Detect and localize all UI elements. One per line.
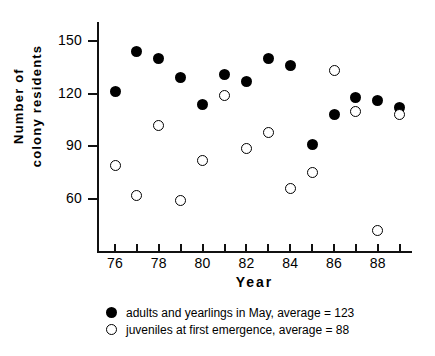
data-point: [372, 95, 383, 106]
x-axis-tick: [202, 244, 204, 252]
data-point: [350, 106, 361, 117]
data-point: [263, 53, 274, 64]
data-point: [110, 160, 121, 171]
data-point: [219, 69, 230, 80]
x-axis-tick-label: 80: [183, 256, 223, 271]
x-axis-tick: [289, 244, 291, 252]
scatter-chart-figure: 1501209060 76788082848688 Number ofcolon…: [0, 0, 435, 356]
data-point: [307, 167, 318, 178]
data-point: [131, 190, 142, 201]
data-point: [394, 109, 405, 120]
x-axis-tick-label: 86: [314, 256, 354, 271]
data-point: [285, 60, 296, 71]
legend-item: adults and yearlings in May, average = 1…: [104, 304, 424, 321]
x-axis-tick: [245, 244, 247, 252]
data-point: [197, 99, 208, 110]
data-point: [329, 65, 340, 76]
y-axis-tick-label: 120: [42, 86, 82, 100]
data-point: [175, 72, 186, 83]
legend-label: adults and yearlings in May, average = 1…: [126, 306, 354, 320]
data-point: [350, 92, 361, 103]
x-axis-title: Year: [97, 274, 412, 290]
chart-legend: adults and yearlings in May, average = 1…: [104, 304, 424, 338]
y-axis-tick-label: 60: [42, 191, 82, 205]
legend-item: juveniles at first emergence, average = …: [104, 321, 424, 338]
filled-circle-icon: [104, 306, 118, 320]
data-point: [307, 139, 318, 150]
plot-area: 1501209060 76788082848688 Number ofcolon…: [0, 0, 435, 300]
x-axis-tick-label: 84: [270, 256, 310, 271]
y-axis-tick: [88, 40, 97, 42]
x-axis-tick-label: 88: [358, 256, 398, 271]
data-point: [197, 155, 208, 166]
x-axis-tick: [399, 244, 401, 252]
y-axis-tick: [88, 93, 97, 95]
data-point: [175, 195, 186, 206]
data-point: [241, 143, 252, 154]
x-axis-tick: [158, 244, 160, 252]
x-axis-tick: [224, 244, 226, 252]
data-point: [329, 109, 340, 120]
data-point: [263, 127, 274, 138]
open-circle-icon: [104, 323, 118, 337]
x-axis-tick: [114, 244, 116, 252]
x-axis-tick: [333, 244, 335, 252]
x-axis-tick-label: 76: [95, 256, 135, 271]
data-point: [241, 76, 252, 87]
x-axis-tick-label: 78: [139, 256, 179, 271]
data-point: [110, 86, 121, 97]
y-axis-line: [97, 22, 99, 252]
x-axis-tick: [355, 244, 357, 252]
data-point: [219, 90, 230, 101]
y-axis-title-line: Number of: [10, 26, 28, 186]
data-point: [153, 120, 164, 131]
y-axis-tick-label: 150: [42, 33, 82, 47]
x-axis-tick: [311, 244, 313, 252]
x-axis-tick: [377, 244, 379, 252]
x-axis-tick: [180, 244, 182, 252]
x-axis-tick-label: 82: [226, 256, 266, 271]
y-axis-title: Number ofcolony residents: [10, 26, 46, 186]
x-axis-tick: [136, 244, 138, 252]
x-axis-tick: [267, 244, 269, 252]
y-axis-title-line: colony residents: [28, 26, 46, 186]
data-point: [372, 225, 383, 236]
y-axis-tick-label: 90: [42, 138, 82, 152]
y-axis-tick: [88, 145, 97, 147]
data-point: [131, 46, 142, 57]
data-point: [285, 183, 296, 194]
x-axis-line: [97, 251, 412, 253]
y-axis-tick: [88, 198, 97, 200]
data-point: [153, 53, 164, 64]
legend-label: juveniles at first emergence, average = …: [126, 323, 349, 337]
